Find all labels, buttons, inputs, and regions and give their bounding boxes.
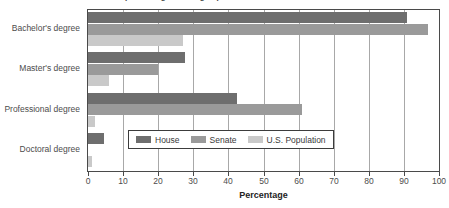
x-tick-label: 70 [329, 176, 338, 187]
legend-entry: U.S. Population [248, 135, 326, 145]
x-tick-label: 20 [153, 176, 162, 187]
x-tick-label: 30 [188, 176, 197, 187]
x-axis-tick-labels: 0102030405060708090100 [87, 176, 440, 188]
y-axis-label: Professional degree [0, 104, 80, 114]
chart-screenshot: Educational Attainment (Percentage with … [0, 0, 449, 208]
bar [88, 156, 92, 167]
legend-label: U.S. Population [267, 135, 326, 145]
x-tick-label: 60 [294, 176, 303, 187]
bar [88, 133, 104, 144]
x-tick-label: 10 [118, 176, 127, 187]
chart-legend: HouseSenateU.S. Population [128, 130, 334, 149]
chart-title-text: Educational Attainment (Percentage with … [33, 0, 219, 1]
legend-swatch-senate [191, 136, 206, 143]
x-tick-label: 80 [364, 176, 373, 187]
bar [88, 75, 109, 86]
bar [88, 12, 407, 23]
legend-label: House [155, 135, 180, 145]
bar [88, 24, 428, 35]
x-tick-label: 40 [223, 176, 232, 187]
bar [88, 93, 237, 104]
x-tick-label: 100 [432, 176, 446, 187]
chart-title-cropped: Educational Attainment (Percentage with … [0, 0, 449, 5]
x-tick-label: 50 [259, 176, 268, 187]
legend-swatch-house [136, 136, 151, 143]
y-axis-label: Bachelor's degree [0, 23, 80, 33]
legend-label: Senate [210, 135, 237, 145]
x-tick-label: 90 [399, 176, 408, 187]
legend-entry: House [136, 135, 180, 145]
x-tick-label: 0 [86, 176, 91, 187]
bar [88, 52, 185, 63]
x-axis-title: Percentage [87, 190, 440, 201]
bar [88, 64, 158, 75]
bar [88, 104, 302, 115]
y-axis-category-labels: Bachelor's degreeMaster's degreeProfessi… [0, 8, 83, 172]
bar [88, 116, 95, 127]
y-axis-label: Master's degree [0, 63, 80, 73]
legend-entry: Senate [191, 135, 237, 145]
legend-swatch-pop [248, 136, 263, 143]
y-axis-label: Doctoral degree [0, 144, 80, 154]
bar [88, 35, 183, 46]
